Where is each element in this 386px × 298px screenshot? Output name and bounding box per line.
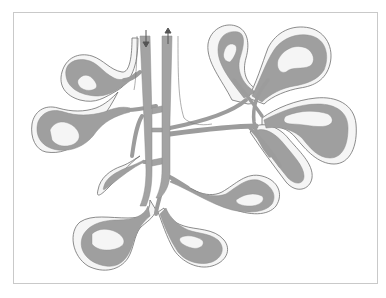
afferent-trunk [140,36,152,206]
capsule-trunk-right-edge [178,36,212,125]
outflow-arrow-icon [165,28,171,33]
capillary-diagram [0,0,386,298]
efferent-trunk [156,36,172,198]
vessel-upper-cross [170,100,246,128]
vessel-mid-cross-left [132,116,142,156]
trunk-bridge-middle [152,128,162,132]
trunk-bridge-lower [152,158,162,166]
